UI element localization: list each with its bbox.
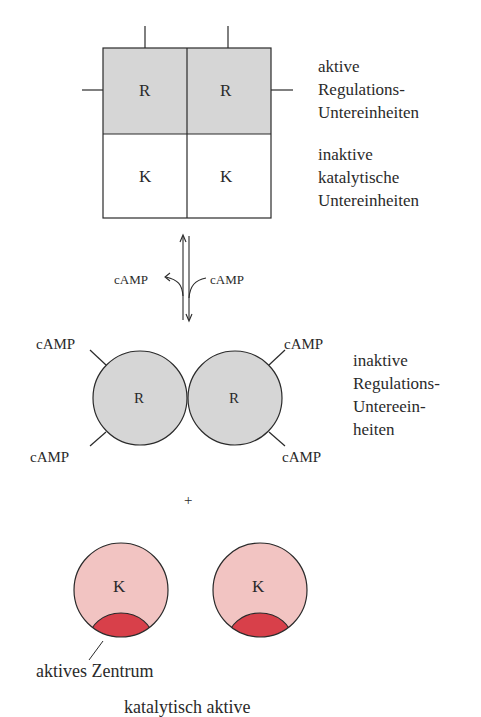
label-line: Regulations- (318, 80, 405, 99)
active-site (228, 613, 292, 667)
catalytic-subunit-label: K (113, 577, 125, 596)
plus-sign: + (184, 491, 192, 510)
label-line: Untereein- (353, 397, 426, 416)
complex-cell-label: R (220, 81, 231, 100)
regulatory-subunit-label: R (134, 389, 144, 408)
camp-label-top-left: cAMP (36, 335, 75, 354)
holoenzyme-complex (82, 26, 293, 218)
camp-label-bottom-right: cAMP (282, 448, 321, 467)
camp-bond-line (269, 432, 285, 446)
camp-released-label: cAMP (114, 270, 148, 289)
equilibrium-arrows (165, 235, 206, 321)
complex-cell-label: R (139, 81, 150, 100)
active-site-label: aktives Zentrum (36, 662, 153, 681)
complex-cell-label: K (220, 167, 232, 186)
camp-bond-line (90, 350, 106, 365)
bottom-caption-cut: katalytisch aktive (124, 698, 250, 717)
label-line: aktive (318, 57, 360, 76)
complex-cell-label: K (139, 167, 151, 186)
camp-label-top-right: cAMP (284, 335, 323, 354)
camp-bond-line (90, 432, 106, 446)
camp-label-bottom-left: cAMP (30, 448, 69, 467)
label-line: Untereinheiten (318, 103, 419, 122)
label-line: Untereinheiten (318, 191, 419, 210)
camp-binding-curve (189, 278, 206, 298)
camp-bound-label: cAMP (210, 270, 244, 289)
regulatory-dimer (90, 350, 285, 446)
label-line: Regulations- (353, 374, 440, 393)
catalytic-subunit-label: K (252, 577, 264, 596)
catalytic-subunits (74, 543, 307, 667)
active-site-pointer-line (89, 641, 103, 660)
regulatory-subunit-label: R (229, 389, 239, 408)
label-line: inaktive (318, 145, 373, 164)
active-site (89, 613, 153, 667)
label-line: katalytische (318, 168, 399, 187)
label-line: inaktive (353, 351, 408, 370)
label-line: heiten (353, 420, 395, 439)
camp-bond-line (269, 350, 285, 365)
